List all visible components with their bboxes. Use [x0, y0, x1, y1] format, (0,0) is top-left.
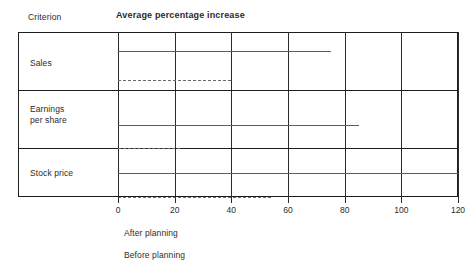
bar-after-planning-earnings-per-share [118, 125, 359, 126]
x-tick-label: 20 [160, 205, 190, 215]
gridline [458, 32, 459, 197]
bar-after-planning-sales [118, 51, 331, 52]
x-tick [345, 197, 346, 203]
bar-before-planning-earnings-per-share [118, 148, 180, 149]
x-tick [175, 197, 176, 203]
row-separator [18, 90, 458, 91]
x-tick-label: 100 [386, 205, 416, 215]
x-tick [401, 197, 402, 203]
x-tick [231, 197, 232, 203]
x-tick [458, 197, 459, 203]
row-label-earnings: Earnings per share [30, 104, 67, 126]
row-label-stock: Stock price [30, 168, 73, 179]
row-label-sales: Sales [30, 58, 52, 69]
criterion-column-header: Criterion [28, 12, 61, 22]
chart-title: Average percentage increase [116, 10, 245, 20]
x-tick-label: 80 [330, 205, 360, 215]
x-tick-label: 0 [103, 205, 133, 215]
row-separator [18, 148, 458, 149]
x-tick-label: 60 [273, 205, 303, 215]
legend-after-planning: After planning [124, 228, 178, 238]
chart-figure: Criterion Average percentage increase Sa… [0, 0, 466, 266]
legend-before-planning: Before planning [124, 250, 185, 260]
bar-before-planning-sales [118, 80, 231, 81]
bar-after-planning-stock-price [118, 173, 458, 174]
x-tick [118, 197, 119, 203]
x-tick-label: 40 [216, 205, 246, 215]
x-tick [288, 197, 289, 203]
bar-before-planning-stock-price [118, 197, 271, 198]
x-tick-label: 120 [443, 205, 466, 215]
